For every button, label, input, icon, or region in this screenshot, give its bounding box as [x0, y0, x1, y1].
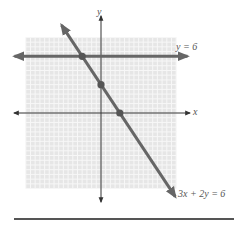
point-marker	[97, 81, 104, 88]
x-axis-label: x	[193, 106, 197, 117]
line-label-diagonal: 3x + 2y = 6	[178, 188, 225, 199]
point-marker	[79, 53, 86, 60]
line-label-horizontal: y = 6	[176, 41, 197, 52]
point-marker	[116, 109, 123, 116]
y-axis-label: y	[97, 6, 101, 17]
divider-rule	[14, 218, 234, 220]
